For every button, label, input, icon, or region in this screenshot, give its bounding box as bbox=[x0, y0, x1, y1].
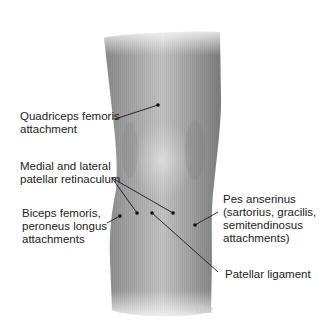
quadriceps-dot bbox=[156, 103, 160, 107]
artist-signature: DAR bbox=[196, 306, 213, 315]
pes-dot bbox=[193, 223, 197, 227]
medial-retinaculum-dot bbox=[171, 211, 175, 215]
biceps-dot bbox=[118, 214, 122, 218]
knee-diagram: Quadriceps femoris attachment Medial and… bbox=[0, 0, 323, 332]
lateral-retinaculum-dot bbox=[135, 211, 139, 215]
label-pes-anserinus: Pes anserinus (sartorius, gracilis, semi… bbox=[223, 193, 316, 245]
label-biceps: Biceps femoris, peroneus longus attachme… bbox=[22, 207, 107, 246]
patellar-ligament-dot bbox=[150, 211, 154, 215]
patella-highlight bbox=[132, 120, 192, 200]
label-quadriceps: Quadriceps femoris attachment bbox=[20, 110, 120, 136]
label-patellar-ligament: Patellar ligament bbox=[225, 268, 311, 281]
label-retinaculum: Medial and lateral patellar retinaculum bbox=[20, 160, 120, 186]
